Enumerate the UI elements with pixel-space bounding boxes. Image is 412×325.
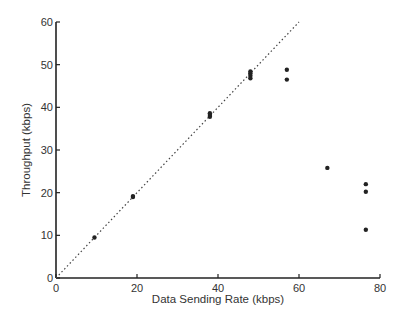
y-tick-label: 40 (41, 101, 53, 113)
y-axis-label: Throughput (kbps) (20, 103, 32, 197)
reference-line (56, 22, 299, 278)
x-tick-label: 80 (374, 282, 386, 294)
data-point (285, 77, 289, 81)
data-point (364, 228, 368, 232)
data-point (92, 235, 96, 239)
x-tick-label: 0 (53, 282, 59, 294)
x-tick-label: 20 (131, 282, 143, 294)
plot-area: 0204060800102030405060 (41, 16, 386, 294)
data-point (285, 68, 289, 72)
y-tick-label: 50 (41, 59, 53, 71)
y-tick-label: 0 (47, 272, 53, 284)
data-point (208, 111, 212, 115)
y-tick-label: 60 (41, 16, 53, 28)
data-point (248, 69, 252, 73)
y-tick-label: 20 (41, 187, 53, 199)
data-point (325, 166, 329, 170)
x-axis-label: Data Sending Rate (kbps) (152, 293, 284, 305)
data-point (364, 182, 368, 186)
y-tick-label: 30 (41, 144, 53, 156)
data-point (131, 194, 135, 198)
y-tick-label: 10 (41, 229, 53, 241)
scatter-chart: 0204060800102030405060 Data Sending Rate… (0, 0, 412, 325)
data-point (364, 190, 368, 194)
x-tick-label: 60 (293, 282, 305, 294)
